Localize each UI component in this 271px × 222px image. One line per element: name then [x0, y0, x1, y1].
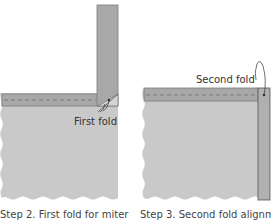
first-fold-illustration [0, 0, 135, 222]
step-3-caption: Step 3. Second fold alignment [140, 209, 271, 220]
second-fold-illustration [136, 0, 271, 222]
step-3-panel: Second fold Step 3. Second fold alignmen… [136, 0, 271, 222]
step-2-panel: First fold Step 2. First fold for miter [0, 0, 135, 222]
second-fold-label: Second fold [196, 74, 255, 85]
first-fold-label: First fold [74, 116, 117, 127]
step-2-caption: Step 2. First fold for miter [0, 209, 128, 220]
